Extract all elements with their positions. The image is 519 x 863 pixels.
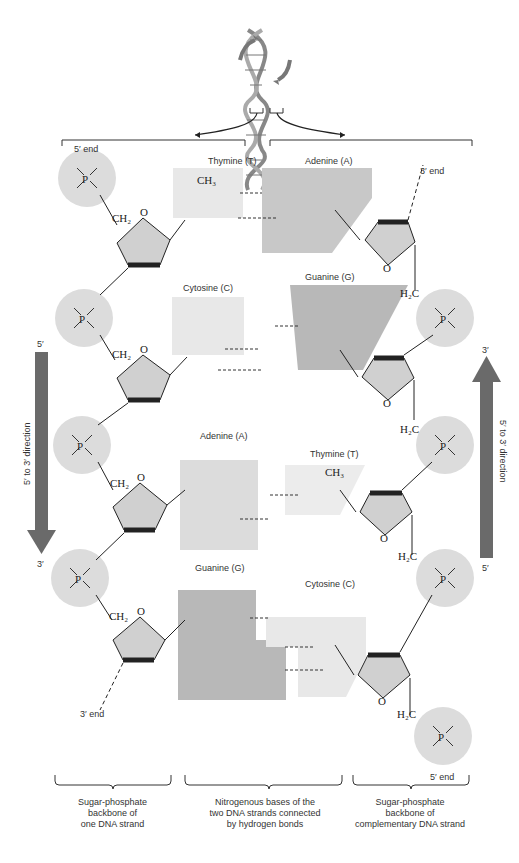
right-arrow-top-label: 3′ xyxy=(482,345,489,355)
diagram-canvas: P P P P P P P P CH₂ CH₂ CH₂ CH₂ H₂C H₂C … xyxy=(0,0,519,863)
svg-text:P: P xyxy=(82,173,88,185)
caption-middle-line: two DNA strands connected xyxy=(190,808,340,819)
phosphate-groups-right xyxy=(414,289,474,765)
left-arrow-bottom-label: 3′ xyxy=(37,559,44,569)
bottom-braces xyxy=(55,775,469,789)
right-direction-arrow: 3′ 5′ 5′ to 3′ direction xyxy=(472,345,508,573)
base-label-cytosine-2: Cytosine (C) xyxy=(305,579,355,589)
caption-right-line: backbone of xyxy=(345,808,475,819)
base-label-adenine-1: Adenine (A) xyxy=(305,156,353,166)
svg-text:P: P xyxy=(438,731,444,743)
caption-middle: Nitrogenous bases of the two DNA strands… xyxy=(190,797,340,830)
left-arrow-top-label: 5′ xyxy=(37,339,44,349)
caption-left: Sugar-phosphate backbone of one DNA stra… xyxy=(55,797,170,830)
svg-text:O: O xyxy=(137,605,145,617)
svg-text:P: P xyxy=(440,573,446,585)
svg-text:P: P xyxy=(440,313,446,325)
phosphate-groups-left xyxy=(51,149,116,607)
svg-text:O: O xyxy=(383,397,391,409)
base-label-guanine-1: Guanine (G) xyxy=(305,272,355,282)
base-label-guanine-2: Guanine (G) xyxy=(195,563,245,573)
right-arrow-bottom-label: 5′ xyxy=(482,563,489,573)
svg-text:O: O xyxy=(383,262,391,274)
svg-text:P: P xyxy=(75,573,81,585)
right-arrow-text: 5′ to 3′ direction xyxy=(498,420,508,482)
base-label-thymine-1: Thymine (T) xyxy=(208,156,257,166)
svg-text:H₂C: H₂C xyxy=(400,287,419,299)
caption-right-line: complementary DNA strand xyxy=(345,819,475,830)
svg-text:O: O xyxy=(137,471,145,483)
caption-left-line: Sugar-phosphate xyxy=(55,797,170,808)
svg-text:P: P xyxy=(77,440,83,452)
svg-text:O: O xyxy=(378,695,386,707)
three-prime-end-bottom: 3′ end xyxy=(80,709,104,719)
five-prime-end-bottom: 5′ end xyxy=(430,772,454,782)
svg-text:O: O xyxy=(380,532,388,544)
base-label-adenine-2: Adenine (A) xyxy=(200,431,248,441)
double-helix-icon xyxy=(195,30,345,190)
svg-text:H₂C: H₂C xyxy=(398,550,417,562)
svg-text:H₂C: H₂C xyxy=(400,423,419,435)
left-arrow-text: 5′ to 3′ direction xyxy=(22,423,32,485)
base-label-cytosine-1: Cytosine (C) xyxy=(183,283,233,293)
caption-right-line: Sugar-phosphate xyxy=(345,797,475,808)
svg-text:CH₃: CH₃ xyxy=(197,174,216,186)
svg-text:O: O xyxy=(140,206,148,218)
svg-text:CH₂: CH₂ xyxy=(112,348,131,360)
svg-text:P: P xyxy=(79,313,85,325)
caption-left-line: backbone of xyxy=(55,808,170,819)
caption-right: Sugar-phosphate backbone of complementar… xyxy=(345,797,475,830)
caption-middle-line: Nitrogenous bases of the xyxy=(190,797,340,808)
base-label-thymine-2: Thymine (T) xyxy=(310,449,359,459)
caption-left-line: one DNA strand xyxy=(55,819,170,830)
right-bracket xyxy=(270,140,472,146)
svg-text:CH₂: CH₂ xyxy=(112,212,131,224)
svg-text:CH₂: CH₂ xyxy=(110,477,129,489)
svg-text:CH₃: CH₃ xyxy=(325,466,344,478)
three-prime-end-top: 3′ end xyxy=(420,166,444,176)
caption-middle-line: by hydrogen bonds xyxy=(190,819,340,830)
svg-text:O: O xyxy=(140,343,148,355)
svg-text:P: P xyxy=(440,440,446,452)
dna-structure-diagram: P P P P P P P P CH₂ CH₂ CH₂ CH₂ H₂C H₂C … xyxy=(0,0,519,863)
five-prime-end-top: 5′ end xyxy=(74,144,98,154)
svg-text:CH₂: CH₂ xyxy=(109,610,128,622)
left-direction-arrow: 5′ 3′ 5′ to 3′ direction xyxy=(22,339,56,569)
svg-text:H₂C: H₂C xyxy=(397,708,416,720)
